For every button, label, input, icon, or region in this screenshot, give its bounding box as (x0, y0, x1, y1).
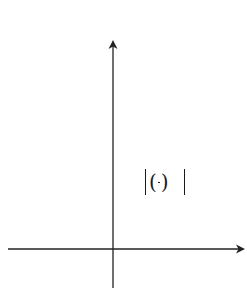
absolute-value-bars: ( ) (145, 169, 185, 195)
left-paren: ( (149, 172, 157, 192)
fraction-one-half (158, 182, 160, 183)
function-graph (0, 0, 247, 289)
fraction-numerator (158, 182, 160, 183)
equation-label: ( ) (133, 168, 186, 196)
right-paren: ) (161, 172, 169, 192)
